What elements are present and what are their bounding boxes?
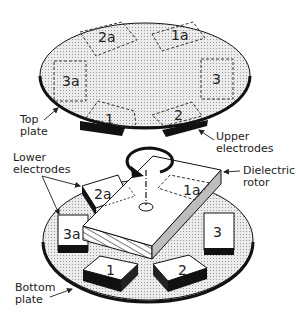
lower-electrode-3: 3 [204, 213, 234, 255]
rotor-label-1a: 1a [183, 182, 201, 198]
lower-label-3: 3 [213, 224, 222, 240]
top-label-3: 3 [212, 71, 221, 87]
lower-label-2: 2 [178, 262, 187, 278]
motor-diagram: 2a 1a 3a 3 1 2 3a 3 1 [0, 0, 300, 313]
top-label-1: 1 [105, 111, 114, 127]
top-label-2: 2 [174, 107, 183, 123]
top-label-3a: 3a [62, 73, 80, 89]
label-dielectric-rotor-2: rotor [243, 176, 270, 189]
top-label-2a: 2a [98, 29, 116, 45]
label-bottom-plate-2: plate [15, 293, 43, 306]
label-lower-electrodes-2: electrodes [13, 163, 71, 176]
label-upper-electrodes-2: electrodes [216, 142, 274, 155]
top-label-1a: 1a [171, 27, 189, 43]
top-plate: 2a 1a 3a 3 1 2 [40, 22, 250, 137]
label-top-plate-2: plate [20, 125, 48, 138]
lower-label-3a: 3a [63, 226, 81, 242]
lower-label-1: 1 [106, 262, 115, 278]
